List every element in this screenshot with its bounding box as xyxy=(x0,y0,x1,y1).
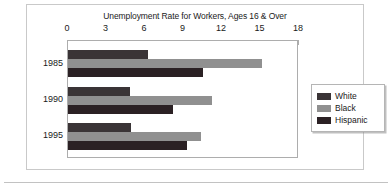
plot-area xyxy=(67,40,298,158)
x-tick-label-18: 18 xyxy=(293,23,303,33)
y-category-label-1995: 1995 xyxy=(27,130,63,140)
legend-swatch-white xyxy=(317,93,331,100)
bar-hispanic-1990 xyxy=(68,105,173,114)
legend-label: Black xyxy=(335,103,356,113)
bar-black-1995 xyxy=(68,132,201,141)
x-tick-label-9: 9 xyxy=(180,23,185,33)
y-category-label-1985: 1985 xyxy=(27,58,63,68)
bar-hispanic-1985 xyxy=(68,68,203,77)
legend-label: Hispanic xyxy=(335,115,368,125)
bottom-divider xyxy=(4,182,388,183)
chart-legend: WhiteBlackHispanic xyxy=(311,84,385,132)
bar-black-1985 xyxy=(68,59,262,68)
x-tick-label-6: 6 xyxy=(141,23,146,33)
legend-item-hispanic[interactable]: Hispanic xyxy=(317,114,378,126)
x-tick-label-0: 0 xyxy=(64,23,69,33)
x-tick-label-3: 3 xyxy=(103,23,108,33)
bar-white-1995 xyxy=(68,123,131,132)
bar-white-1985 xyxy=(68,50,148,59)
x-tick-label-15: 15 xyxy=(254,23,264,33)
bar-hispanic-1995 xyxy=(68,141,187,150)
x-tick-mark-18 xyxy=(298,40,299,45)
legend-swatch-black xyxy=(317,105,331,112)
legend-item-black[interactable]: Black xyxy=(317,102,378,114)
chart-title: Unemployment Rate for Workers, Ages 16 &… xyxy=(27,11,363,21)
legend-label: White xyxy=(335,91,357,101)
legend-item-white[interactable]: White xyxy=(317,90,378,102)
bar-white-1990 xyxy=(68,87,130,96)
x-tick-label-12: 12 xyxy=(216,23,226,33)
bar-black-1990 xyxy=(68,96,212,105)
y-category-label-1990: 1990 xyxy=(27,94,63,104)
legend-swatch-hispanic xyxy=(317,117,331,124)
